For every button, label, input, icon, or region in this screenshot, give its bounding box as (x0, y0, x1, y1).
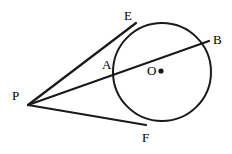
segment-p-to-e (28, 23, 136, 105)
geometry-figure: P E B A O F (0, 0, 232, 154)
vertex-label-p: P (12, 89, 19, 102)
geometry-canvas (0, 0, 232, 154)
vertex-label-f: F (142, 131, 149, 144)
center-point-dot-icon (158, 68, 163, 73)
vertex-label-a: A (102, 58, 111, 71)
vertex-label-o: O (147, 64, 156, 77)
vertex-label-e: E (124, 9, 132, 22)
vertex-label-b: B (213, 33, 222, 46)
